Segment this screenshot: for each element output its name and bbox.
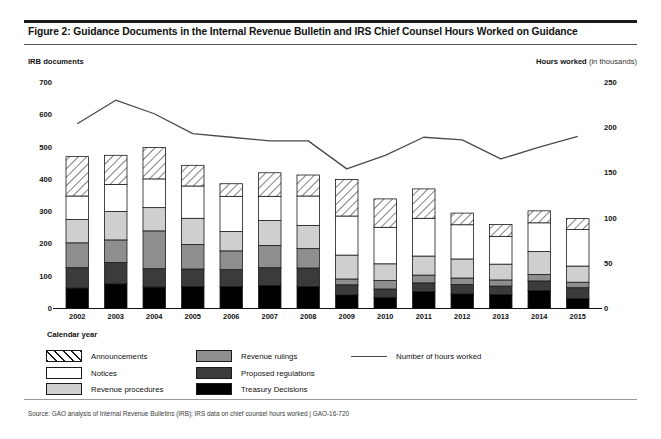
- bar-segment[interactable]: [374, 281, 397, 289]
- bar-segment[interactable]: [259, 221, 282, 246]
- legend-item[interactable]: Proposed regulations: [196, 367, 315, 383]
- bar-segment[interactable]: [374, 199, 397, 227]
- bar-segment[interactable]: [451, 278, 474, 284]
- bar-segment[interactable]: [220, 286, 243, 309]
- bar-segment[interactable]: [105, 155, 128, 184]
- bar-segment[interactable]: [413, 275, 436, 283]
- bar-segment[interactable]: [182, 286, 205, 309]
- bar-segment[interactable]: [182, 218, 205, 244]
- bar-segment[interactable]: [528, 291, 551, 309]
- stacked-bar[interactable]: [528, 211, 551, 309]
- bar-segment[interactable]: [374, 264, 397, 281]
- legend-item[interactable]: Treasury Decisions: [196, 383, 315, 399]
- bar-segment[interactable]: [105, 240, 128, 263]
- bar-segment[interactable]: [259, 245, 282, 267]
- bar-segment[interactable]: [490, 236, 513, 264]
- bar-segment[interactable]: [259, 268, 282, 286]
- bar-segment[interactable]: [336, 216, 359, 255]
- bar-segment[interactable]: [143, 287, 166, 309]
- bar-segment[interactable]: [451, 294, 474, 309]
- stacked-bar[interactable]: [413, 189, 436, 309]
- bar-segment[interactable]: [490, 294, 513, 309]
- bar-segment[interactable]: [220, 232, 243, 251]
- bar-segment[interactable]: [336, 180, 359, 216]
- bar-segment[interactable]: [259, 285, 282, 309]
- bar-segment[interactable]: [490, 264, 513, 280]
- bar-segment[interactable]: [490, 286, 513, 294]
- bar-segment[interactable]: [374, 227, 397, 263]
- bar-segment[interactable]: [105, 184, 128, 211]
- bar-segment[interactable]: [297, 268, 320, 286]
- stacked-bar[interactable]: [182, 165, 205, 309]
- stacked-bar[interactable]: [567, 219, 590, 309]
- bar-segment[interactable]: [105, 263, 128, 284]
- bar-segment[interactable]: [297, 225, 320, 248]
- bar-segment[interactable]: [336, 255, 359, 279]
- bar-segment[interactable]: [66, 220, 89, 243]
- bar-segment[interactable]: [297, 196, 320, 225]
- bar-segment[interactable]: [528, 281, 551, 291]
- bar-segment[interactable]: [413, 283, 436, 292]
- bar-segment[interactable]: [105, 284, 128, 309]
- bar-segment[interactable]: [66, 196, 89, 220]
- bar-segment[interactable]: [259, 173, 282, 197]
- legend-item[interactable]: Revenue procedures: [46, 383, 163, 399]
- stacked-bar[interactable]: [297, 175, 320, 309]
- bar-segment[interactable]: [490, 224, 513, 236]
- bar-segment[interactable]: [451, 284, 474, 293]
- legend-item[interactable]: Notices: [46, 367, 163, 383]
- bar-segment[interactable]: [374, 289, 397, 297]
- bar-segment[interactable]: [451, 213, 474, 225]
- bar-segment[interactable]: [297, 286, 320, 309]
- bar-segment[interactable]: [143, 208, 166, 231]
- bar-segment[interactable]: [143, 269, 166, 287]
- legend-item[interactable]: Number of hours worked: [351, 350, 486, 366]
- bar-segment[interactable]: [66, 243, 89, 268]
- bar-segment[interactable]: [220, 251, 243, 270]
- bar-segment[interactable]: [297, 175, 320, 196]
- bar-segment[interactable]: [567, 230, 590, 266]
- bar-segment[interactable]: [143, 148, 166, 179]
- bar-segment[interactable]: [567, 282, 590, 287]
- bar-segment[interactable]: [528, 223, 551, 252]
- bar-segment[interactable]: [105, 212, 128, 240]
- stacked-bar[interactable]: [105, 155, 128, 309]
- stacked-bar[interactable]: [66, 157, 89, 309]
- bar-segment[interactable]: [413, 218, 436, 256]
- stacked-bar[interactable]: [336, 180, 359, 309]
- bar-segment[interactable]: [567, 219, 590, 230]
- bar-segment[interactable]: [567, 288, 590, 299]
- bar-segment[interactable]: [567, 266, 590, 282]
- legend-item[interactable]: Revenue rulings: [196, 350, 315, 366]
- stacked-bar[interactable]: [220, 184, 243, 309]
- bar-segment[interactable]: [413, 256, 436, 275]
- bar-segment[interactable]: [66, 288, 89, 309]
- bar-segment[interactable]: [336, 295, 359, 309]
- bar-segment[interactable]: [220, 270, 243, 287]
- bar-segment[interactable]: [220, 196, 243, 231]
- bar-segment[interactable]: [490, 280, 513, 286]
- bar-segment[interactable]: [413, 292, 436, 309]
- bar-segment[interactable]: [528, 252, 551, 275]
- bar-segment[interactable]: [143, 231, 166, 269]
- stacked-bar[interactable]: [374, 199, 397, 309]
- bar-segment[interactable]: [259, 196, 282, 220]
- bar-segment[interactable]: [528, 211, 551, 223]
- stacked-bar[interactable]: [490, 224, 513, 309]
- bar-segment[interactable]: [182, 269, 205, 286]
- bar-segment[interactable]: [451, 225, 474, 259]
- bar-segment[interactable]: [182, 165, 205, 186]
- bar-segment[interactable]: [143, 179, 166, 208]
- stacked-bar[interactable]: [259, 173, 282, 309]
- bar-segment[interactable]: [528, 274, 551, 280]
- legend-item[interactable]: Announcements: [46, 350, 163, 366]
- stacked-bar[interactable]: [451, 213, 474, 309]
- bar-segment[interactable]: [66, 268, 89, 288]
- stacked-bar[interactable]: [143, 148, 166, 309]
- bar-segment[interactable]: [451, 259, 474, 278]
- bar-segment[interactable]: [182, 244, 205, 269]
- bar-segment[interactable]: [220, 184, 243, 197]
- bar-segment[interactable]: [336, 279, 359, 285]
- bar-segment[interactable]: [413, 189, 436, 218]
- bar-segment[interactable]: [182, 186, 205, 218]
